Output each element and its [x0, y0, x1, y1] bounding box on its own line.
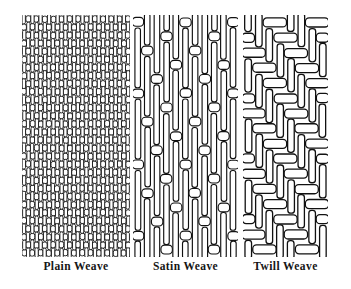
twill-weave-illustration	[243, 15, 328, 257]
plain-weave-illustration	[22, 15, 130, 257]
weave-label-plain: Plain Weave	[22, 260, 130, 272]
weave-comparison-figure: Plain Weave Satin Weave Twill Weave	[0, 0, 351, 289]
weave-label-satin: Satin Weave	[133, 260, 238, 272]
weave-panel-twill	[243, 15, 328, 257]
weave-label-row: Plain Weave Satin Weave Twill Weave	[0, 260, 351, 276]
satin-weave-illustration	[133, 15, 238, 257]
weave-panel-plain	[22, 15, 130, 257]
weave-panel-satin	[133, 15, 238, 257]
weave-label-twill: Twill Weave	[243, 260, 328, 272]
